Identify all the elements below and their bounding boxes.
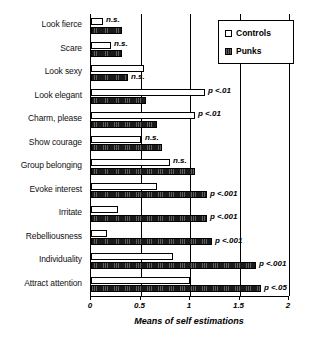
- table-row: p <.001: [91, 249, 289, 273]
- bar-punks[interactable]: [91, 74, 128, 81]
- table-row: n.s.: [91, 155, 289, 179]
- x-tick-label-0: 0: [88, 301, 92, 310]
- x-tick-0: [90, 296, 91, 300]
- bar-controls[interactable]: [91, 89, 205, 96]
- bar-punks[interactable]: [91, 144, 162, 151]
- significance-annotation: p <.01: [198, 109, 221, 118]
- significance-annotation: n.s.: [173, 156, 187, 165]
- x-tick-1-5: [239, 296, 240, 300]
- bar-chart-figure: Look fierce Scare Look sexy Look elegant…: [0, 0, 335, 340]
- x-tick-0-5: [140, 296, 141, 300]
- significance-annotation: p <.001: [259, 259, 286, 268]
- significance-annotation: n.s.: [106, 15, 120, 24]
- table-row: n.s.: [91, 61, 289, 85]
- x-tick-label-1-5: 1.5: [233, 301, 244, 310]
- bar-controls[interactable]: [91, 253, 173, 260]
- chart-legend: Controls Punks: [218, 20, 294, 64]
- legend-label-controls: Controls: [236, 28, 271, 38]
- bar-punks[interactable]: [91, 215, 207, 222]
- bar-punks[interactable]: [91, 121, 157, 128]
- bar-punks[interactable]: [91, 191, 207, 198]
- bar-controls[interactable]: [91, 159, 170, 166]
- x-tick-2: [288, 296, 289, 300]
- table-row: p <.05: [91, 273, 289, 297]
- bar-punks[interactable]: [91, 27, 122, 34]
- category-label-charm-please: Charm, please: [0, 114, 82, 123]
- table-row: p <.001: [91, 202, 289, 226]
- bar-controls[interactable]: [91, 230, 107, 237]
- open-square-icon: [225, 30, 232, 37]
- category-label-individuality: Individuality: [0, 255, 82, 264]
- bar-controls[interactable]: [91, 65, 144, 72]
- category-label-evoke-interest: Evoke interest: [0, 185, 82, 194]
- significance-annotation: p <.01: [208, 86, 231, 95]
- legend-item-punks[interactable]: Punks: [225, 46, 262, 56]
- bar-controls[interactable]: [91, 183, 157, 190]
- bar-punks[interactable]: [91, 168, 195, 175]
- bar-controls[interactable]: [91, 206, 118, 213]
- significance-annotation: n.s.: [145, 133, 159, 142]
- bar-controls[interactable]: [91, 277, 190, 284]
- x-tick-label-1: 1: [187, 301, 191, 310]
- x-tick-label-2: 2: [286, 301, 290, 310]
- bar-punks[interactable]: [91, 285, 261, 292]
- bar-controls[interactable]: [91, 42, 111, 49]
- significance-annotation: p <.001: [210, 189, 237, 198]
- significance-annotation: p <.001: [210, 212, 237, 221]
- table-row: p <.001: [91, 179, 289, 203]
- category-label-irritate: Irritate: [0, 208, 82, 217]
- bar-punks[interactable]: [91, 97, 146, 104]
- bar-punks[interactable]: [91, 262, 256, 269]
- x-axis-title: Means of self estimations: [90, 316, 288, 326]
- bar-punks[interactable]: [91, 238, 212, 245]
- significance-annotation: p <.001: [215, 236, 242, 245]
- bar-controls[interactable]: [91, 136, 141, 143]
- table-row: p <.01: [91, 108, 289, 132]
- table-row: p <.001: [91, 226, 289, 250]
- table-row: p <.01: [91, 85, 289, 109]
- bar-controls[interactable]: [91, 112, 195, 119]
- significance-annotation: n.s.: [114, 39, 128, 48]
- x-tick-label-0-5: 0.5: [134, 301, 145, 310]
- x-tick-1: [189, 296, 190, 300]
- category-axis-labels: Look fierce Scare Look sexy Look elegant…: [0, 14, 86, 296]
- bar-punks[interactable]: [91, 50, 122, 57]
- category-label-look-fierce: Look fierce: [0, 20, 82, 29]
- bar-controls[interactable]: [91, 18, 103, 25]
- category-label-look-sexy: Look sexy: [0, 67, 82, 76]
- table-row: n.s.: [91, 132, 289, 156]
- category-label-rebelliousness: Rebelliousness: [0, 232, 82, 241]
- legend-label-punks: Punks: [236, 46, 262, 56]
- significance-annotation: n.s.: [131, 72, 145, 81]
- category-label-look-elegant: Look elegant: [0, 91, 82, 100]
- category-label-scare: Scare: [0, 44, 82, 53]
- filled-square-icon: [225, 48, 232, 55]
- significance-annotation: p <.05: [264, 283, 287, 292]
- legend-item-controls[interactable]: Controls: [225, 28, 271, 38]
- category-label-show-courage: Show courage: [0, 138, 82, 147]
- category-label-attract-attention: Attract attention: [0, 279, 82, 288]
- category-label-group-belonging: Group belonging: [0, 161, 82, 170]
